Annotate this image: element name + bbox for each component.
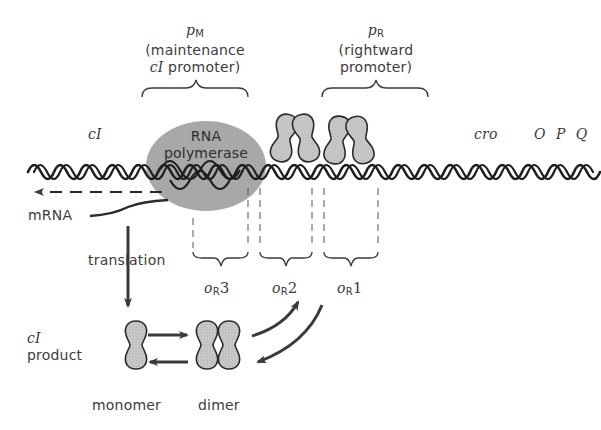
pr-label: pR (rightward promoter) [316,22,436,76]
translation-label: translation [88,252,165,269]
operator-braces [193,252,378,266]
pm-label: pM (maintenance cI promoter) [130,22,260,76]
pm-line1: (maintenance [130,42,260,59]
dna-double-helix [28,165,600,179]
gene-cro-label: cro [474,126,498,143]
mrna-strand [90,200,168,216]
pm-brace [142,80,248,97]
rna-polymerase-label: RNA polymerase [156,128,256,162]
gene-opq-label: O P Q [534,126,590,143]
pm-symbol: pM [130,22,260,42]
pm-line2: cI promoter) [130,59,260,76]
diagram-graphics [0,0,601,430]
operator-or3-label: oR3 [204,280,230,300]
gene-ci-label: cI [88,126,102,143]
pr-line1: (rightward [316,42,436,59]
pr-symbol: pR [316,22,436,42]
pr-brace [322,80,428,97]
lambda-repressor-diagram: pM (maintenance cI promoter) pR (rightwa… [0,0,601,430]
free-monomer [125,321,146,369]
operator-or2-label: oR2 [272,280,298,300]
ci-product-label: cI product [27,330,82,364]
monomer-label: monomer [92,397,161,414]
mrna-label: mRNA [28,207,72,224]
bound-repressor-dimers [269,112,376,166]
dimer-binding-arrow [252,302,298,336]
free-dimer [196,321,239,369]
operator-or1-label: oR1 [337,280,363,300]
pr-line2: promoter) [316,59,436,76]
dimer-label: dimer [198,397,240,414]
